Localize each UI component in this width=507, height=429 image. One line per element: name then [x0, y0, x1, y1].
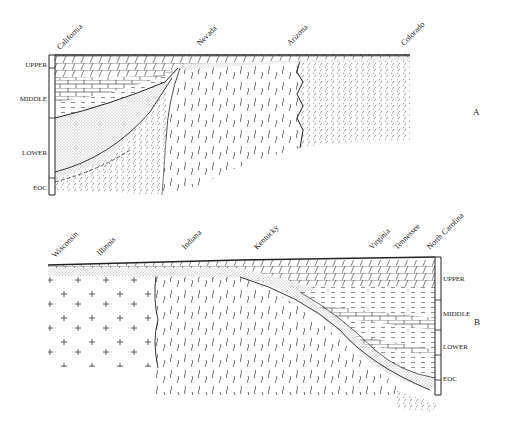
state-label-wisconsin: Wisconsin — [50, 229, 80, 259]
state-label-colorado: Colorado — [399, 20, 426, 47]
strat-label-middle-b: MIDDLE — [443, 310, 470, 318]
strat-label-upper-b: UPPER — [443, 275, 465, 283]
basement-metamorphic — [162, 60, 303, 195]
state-label-indiana: Indiana — [180, 228, 204, 252]
state-label-illinois: Illinois — [95, 235, 117, 257]
strat-label-middle-a: MIDDLE — [20, 95, 47, 103]
panel-label-a: A — [473, 107, 480, 117]
strat-label-eoc-a: EOC — [33, 184, 47, 192]
panel-a — [49, 54, 410, 195]
cross-section-figure: California Nevada Arizona Colorado UPPER… — [0, 0, 507, 429]
state-label-arizona: Arizona — [285, 23, 310, 48]
state-label-california: California — [55, 22, 85, 52]
state-label-kentucky: Kentucky — [252, 223, 280, 251]
strat-label-lower-b: LOWER — [443, 343, 468, 351]
state-label-tennessee: Tennessee — [392, 222, 422, 252]
panel-label-b: B — [474, 317, 480, 327]
state-label-nevada: Nevada — [195, 23, 219, 47]
strat-label-lower-a: LOWER — [22, 149, 47, 157]
state-label-virginia: Virginia — [367, 226, 392, 251]
basement-flecked-colorado — [300, 58, 410, 148]
basement-granite — [48, 275, 156, 367]
panel-b — [48, 257, 441, 412]
state-label-north-carolina: North Carolina — [425, 211, 466, 252]
strat-label-eoc-b: EOC — [443, 375, 457, 383]
strat-label-upper-a: UPPER — [25, 61, 47, 69]
